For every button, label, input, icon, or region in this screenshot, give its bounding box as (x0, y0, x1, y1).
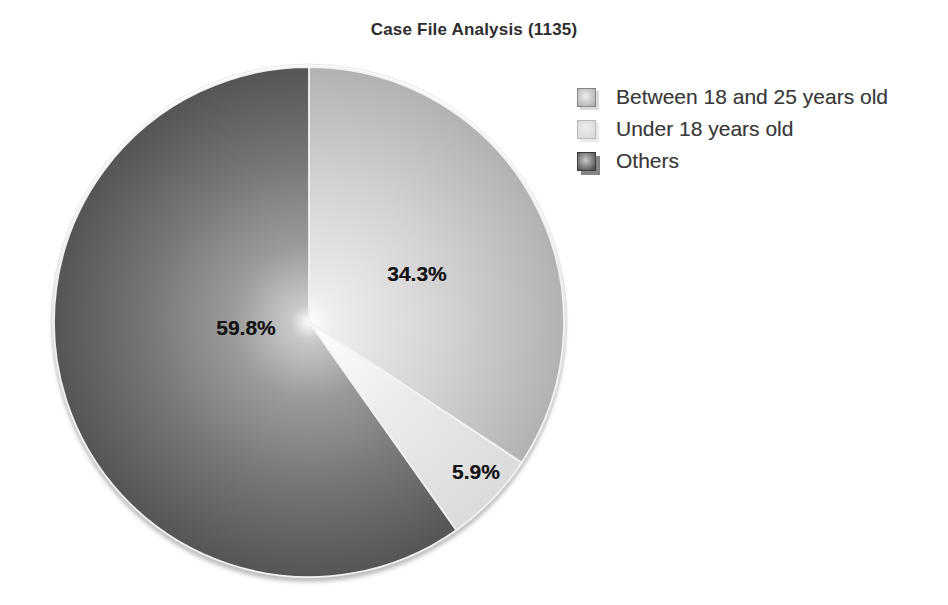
legend-swatch-under-18-icon (577, 120, 596, 139)
legend-item-under-18: Under 18 years old (577, 119, 888, 139)
slice-value-label-under-18: 5.9% (452, 460, 500, 484)
slice-value-label-between-18-25: 34.3% (387, 262, 447, 286)
legend-label-others: Others (616, 149, 679, 173)
slice-value-label-others: 59.8% (216, 316, 276, 340)
legend: Between 18 and 25 years old Under 18 yea… (577, 87, 888, 183)
legend-item-others: Others (577, 151, 888, 171)
legend-swatch-between-18-25-icon (577, 88, 596, 107)
legend-label-between-18-25: Between 18 and 25 years old (616, 85, 888, 109)
legend-swatch-others-icon (577, 152, 596, 171)
legend-item-between-18-25: Between 18 and 25 years old (577, 87, 888, 107)
chart-page: Case File Analysis (1135) 34.3% 5.9% 59.… (0, 0, 948, 605)
legend-label-under-18: Under 18 years old (616, 117, 793, 141)
